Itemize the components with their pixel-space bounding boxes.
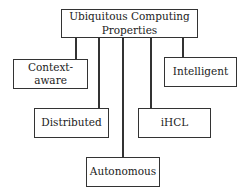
node-autonomous: Autonomous bbox=[86, 157, 160, 187]
connector-context-aware bbox=[75, 37, 77, 59]
node-intelligent: Intelligent bbox=[164, 57, 237, 87]
node-label: Intelligent bbox=[173, 65, 228, 78]
node-context-aware: Context-aware bbox=[13, 59, 88, 89]
root-label-line1: Ubiquitous Computing bbox=[69, 10, 190, 23]
connector-autonomous bbox=[122, 37, 124, 157]
root-label-line2: Properties bbox=[102, 24, 158, 37]
connector-intelligent bbox=[182, 37, 184, 57]
diagram-canvas: Ubiquitous Computing Properties Context-… bbox=[0, 0, 248, 196]
node-label: Distributed bbox=[41, 116, 101, 129]
node-label: iHCL bbox=[161, 116, 189, 129]
node-label: Autonomous bbox=[90, 165, 156, 178]
node-ihcl: iHCL bbox=[138, 108, 211, 138]
root-node: Ubiquitous Computing Properties bbox=[61, 9, 198, 38]
node-label: Context-aware bbox=[14, 61, 87, 87]
node-distributed: Distributed bbox=[34, 108, 109, 138]
connector-ihcl bbox=[150, 37, 152, 108]
connector-distributed bbox=[98, 37, 100, 108]
